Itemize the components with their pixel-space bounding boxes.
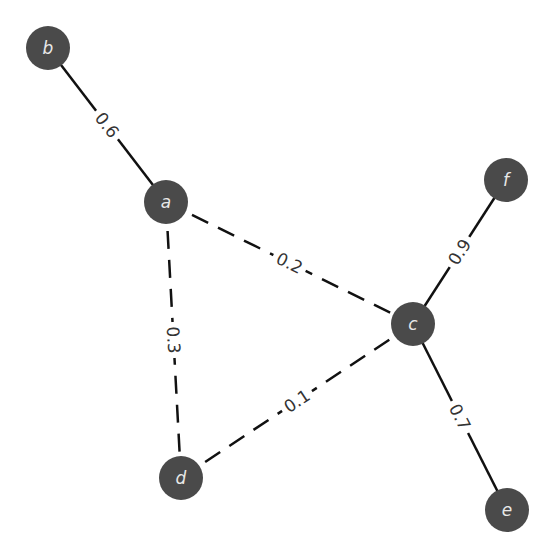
node-label: c [408, 314, 418, 334]
edge-labels-layer: 0.60.20.30.90.10.7 [87, 104, 478, 438]
node-c[interactable]: c [391, 302, 435, 346]
edge-label-a-d: 0.3 [162, 321, 186, 358]
node-f[interactable]: f [484, 158, 528, 202]
edge-label-b-a: 0.6 [87, 104, 126, 146]
node-label: a [161, 192, 171, 212]
edges-layer [48, 48, 507, 510]
node-label: e [502, 500, 512, 520]
node-e[interactable]: e [485, 488, 529, 532]
graph-canvas: 0.60.20.30.90.10.7 bafcde [0, 0, 554, 555]
node-b[interactable]: b [26, 26, 70, 70]
node-d[interactable]: d [159, 456, 203, 500]
nodes-layer: bafcde [26, 26, 529, 532]
node-label: b [43, 38, 54, 58]
edge-label-c-e: 0.7 [442, 396, 478, 438]
edge-label-d-c: 0.1 [276, 382, 318, 420]
node-a[interactable]: a [144, 180, 188, 224]
node-label: d [176, 468, 187, 488]
edge-label-f-c: 0.9 [440, 231, 478, 273]
edge-label-a-c: 0.2 [268, 245, 310, 281]
edge-weight: 0.3 [163, 326, 184, 354]
